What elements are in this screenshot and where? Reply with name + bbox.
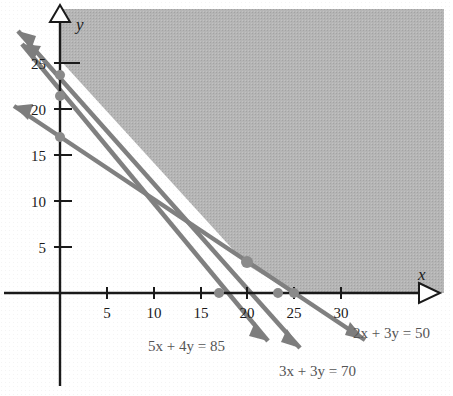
point-y-intercept-2x3y50	[55, 132, 65, 142]
y-axis-label: y	[74, 15, 84, 34]
y-tick-label-5: 5	[39, 240, 47, 256]
x-tick-label-15: 15	[194, 305, 209, 321]
point-x-intercept-3x3y70	[273, 288, 283, 298]
point-y-intercept-3x3y70	[55, 70, 65, 80]
point-intersection-20-3	[241, 256, 253, 268]
annotation-5x-4y-85: 5x + 4y = 85	[148, 338, 225, 354]
x-axis-label: x	[417, 265, 426, 284]
y-tick-label-20: 20	[31, 102, 46, 118]
x-tick-label-20: 20	[240, 305, 255, 321]
annotation-2x-3y-50: 2x + 3y = 50	[353, 325, 430, 341]
y-tick-label-25: 25	[31, 56, 46, 72]
annotation-3x-3y-70: 3x + 3y = 70	[279, 363, 356, 379]
point-x-intercept-2x3y50	[289, 288, 299, 298]
y-tick-label-15: 15	[31, 148, 46, 164]
x-tick-label-30: 30	[334, 305, 349, 321]
chart-figure: 5 10 15 20 25 30 5 10 15 20 25 y x	[0, 0, 453, 396]
point-x-intercept-5x4y85	[214, 288, 224, 298]
inequality-graph-svg: 5 10 15 20 25 30 5 10 15 20 25 y x	[0, 0, 453, 396]
x-tick-label-10: 10	[147, 305, 162, 321]
x-tick-label-25: 25	[287, 305, 302, 321]
x-tick-label-5: 5	[103, 305, 111, 321]
point-y-intercept-5x4y85	[55, 91, 65, 101]
y-tick-label-10: 10	[31, 194, 46, 210]
